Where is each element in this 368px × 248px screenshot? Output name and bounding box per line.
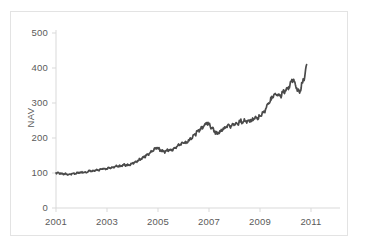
x-tick-label: 2003 bbox=[90, 216, 124, 227]
y-tick-label: 500 bbox=[22, 27, 48, 38]
y-tick-label: 0 bbox=[22, 202, 48, 213]
y-tick-label: 300 bbox=[22, 97, 48, 108]
x-tick-label: 2005 bbox=[141, 216, 175, 227]
x-tick-label: 2011 bbox=[294, 216, 328, 227]
chart-plot-area bbox=[0, 0, 368, 248]
y-tick-label: 400 bbox=[22, 62, 48, 73]
nav-series-line bbox=[56, 65, 307, 175]
axis-lines bbox=[56, 30, 340, 208]
x-tick-label: 2009 bbox=[243, 216, 277, 227]
x-tick-label: 2007 bbox=[192, 216, 226, 227]
y-axis-ticks bbox=[52, 33, 56, 208]
x-tick-label: 2001 bbox=[39, 216, 73, 227]
y-tick-label: 100 bbox=[22, 167, 48, 178]
x-axis-ticks bbox=[56, 208, 311, 212]
y-tick-label: 200 bbox=[22, 132, 48, 143]
chart-container: NAV 0100200300400500 2001200320052007200… bbox=[0, 0, 368, 248]
